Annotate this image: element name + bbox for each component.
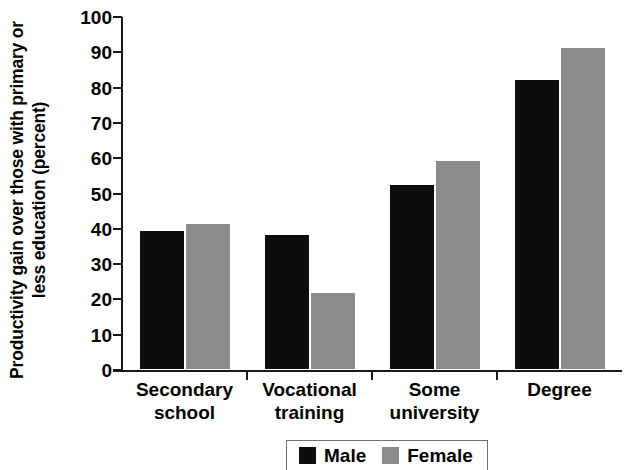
y-axis-tick [113,122,122,124]
y-axis-tick-label: 20 [91,290,112,309]
bar-male-secondary-school [140,231,184,369]
legend-item-female: Female [382,446,472,465]
bar-female-degree [561,48,605,369]
legend-swatch-female [382,447,399,464]
legend-label-female: Female [407,446,472,465]
y-axis-tick [113,263,122,265]
y-axis-tick-label: 100 [80,8,112,27]
x-axis-label-vocational-training: Vocationaltraining [247,378,372,424]
x-axis-label-line1: Degree [527,379,591,400]
x-axis-label-secondary-school: Secondaryschool [122,378,247,424]
y-axis-tick [113,193,122,195]
y-axis-tick-label: 50 [91,185,112,204]
plot-area [122,17,622,370]
y-axis-tick-label: 0 [101,361,112,380]
x-axis-line [113,370,622,372]
x-axis-label-line2: training [247,401,372,424]
bar-female-some-university [436,161,480,369]
y-axis-title: Productivity gain over those with primar… [0,0,58,400]
y-axis-tick [113,51,122,53]
bar-male-degree [515,80,559,369]
y-axis-title-line1: Productivity gain over those with primar… [7,21,27,379]
y-axis-tick [113,16,122,18]
y-axis-tick-label: 70 [91,114,112,133]
y-axis-tick [113,228,122,230]
x-axis-label-some-university: Someuniversity [372,378,497,424]
y-axis-tick [113,157,122,159]
x-axis-label-line1: Secondary [136,379,233,400]
y-axis-tick-label: 10 [91,326,112,345]
bar-male-vocational-training [265,235,309,369]
x-axis-label-line1: Some [409,379,461,400]
x-axis-label-line2: school [122,401,247,424]
y-axis-tick-label: 40 [91,220,112,239]
y-axis-tick-labels: 0102030405060708090100 [62,17,112,371]
bar-chart: Productivity gain over those with primar… [0,0,626,470]
y-axis-tick [113,87,122,89]
chart-legend: MaleFemale [286,440,488,470]
x-axis-label-line2: university [372,401,497,424]
legend-item-male: Male [299,446,366,465]
x-axis-label-degree: Degree [497,378,622,401]
legend-label-male: Male [324,446,366,465]
y-axis-tick-label: 90 [91,43,112,62]
legend-swatch-male [299,447,316,464]
y-axis-tick [113,298,122,300]
y-axis-tick-label: 60 [91,149,112,168]
bar-male-some-university [390,185,434,369]
bar-female-secondary-school [186,224,230,369]
y-axis-tick [113,334,122,336]
bar-female-vocational-training [311,293,355,369]
y-axis-tick [113,369,122,371]
y-axis-tick-label: 30 [91,255,112,274]
y-axis-tick-label: 80 [91,79,112,98]
x-axis-tick-labels: SecondaryschoolVocationaltrainingSomeuni… [122,378,622,434]
y-axis-title-line2: less education (percent) [29,21,51,379]
x-axis-label-line1: Vocational [262,379,357,400]
